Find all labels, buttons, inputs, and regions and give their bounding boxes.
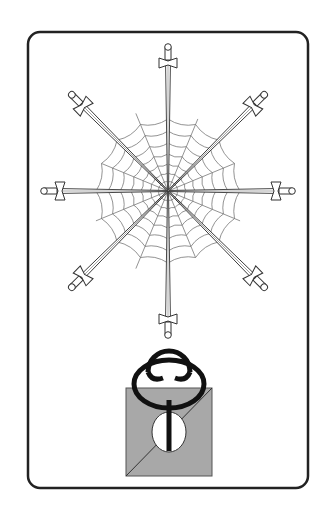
card-illustration bbox=[0, 0, 318, 525]
